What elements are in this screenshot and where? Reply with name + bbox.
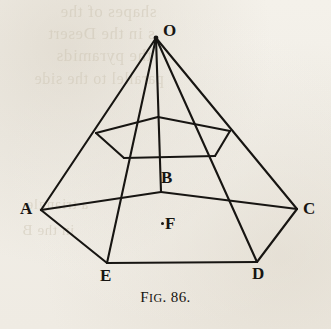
lateral-edge-OA <box>41 38 156 210</box>
apex-point <box>154 36 159 41</box>
base-edge <box>257 209 297 262</box>
lateral-edge-OC <box>156 38 297 209</box>
inner-edge <box>96 117 158 133</box>
figure-container: shapes of thes in the Desertthe pyramids… <box>0 0 331 329</box>
inner-edge <box>124 156 215 158</box>
base-edge <box>107 262 257 263</box>
vertex-label-e: E <box>100 267 111 284</box>
vertex-label-f: F <box>165 215 175 232</box>
center-marker-dot <box>161 222 164 225</box>
inner-pentagon-edges <box>96 117 230 158</box>
inner-edge <box>96 133 124 158</box>
vertex-label-b: B <box>161 169 172 186</box>
pyramid-diagram <box>0 0 331 329</box>
vertex-label-d: D <box>252 265 264 282</box>
vertex-label-o: O <box>163 22 176 39</box>
caption-initial: F <box>140 289 149 305</box>
base-edge <box>41 192 161 210</box>
base-edge <box>41 210 107 263</box>
inner-edge <box>215 131 230 156</box>
figure-caption: FIG. 86. <box>0 288 331 306</box>
vertex-label-a: A <box>20 200 32 217</box>
caption-number: . 86. <box>162 289 190 305</box>
caption-smallcaps: IG <box>149 291 162 305</box>
vertex-label-c: C <box>303 200 315 217</box>
